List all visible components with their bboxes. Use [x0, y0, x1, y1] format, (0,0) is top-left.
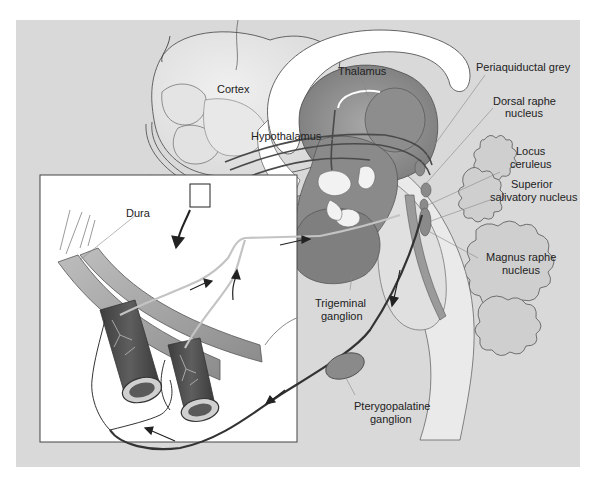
label-trigeminal-ganglion-line2: ganglion	[321, 310, 363, 322]
label-superior-salivatory-line2: salivatory nucleus	[490, 191, 577, 203]
label-magnus-raphe-line1: Magnus raphe	[486, 251, 556, 263]
label-periaqueductal-grey: Periaquiductal grey	[476, 61, 570, 73]
label-pterygopalatine-ganglion-line2: ganglion	[370, 413, 412, 425]
label-thalamus: Thalamus	[338, 65, 386, 77]
thalamus-nucleus	[365, 88, 425, 152]
label-locus-ceruleus-line1: Locus	[516, 145, 545, 157]
label-pterygopalatine-ganglion-line1: Pterygopalatine	[354, 400, 430, 412]
label-cortex: Cortex	[217, 83, 249, 95]
label-trigeminal-ganglion-line1: Trigeminal	[315, 297, 366, 309]
label-superior-salivatory-line1: Superior	[511, 178, 553, 190]
label-hypothalamus: Hypothalamus	[251, 130, 321, 142]
label-dorsal-raphe-line2: nucleus	[505, 107, 543, 119]
label-dura: Dura	[126, 207, 150, 219]
trigeminovascular-diagram: Cortex Thalamus Hypothalamus Periaquiduc…	[0, 0, 597, 479]
label-dorsal-raphe-line1: Dorsal raphe	[493, 95, 556, 107]
label-magnus-raphe-line2: nucleus	[502, 264, 540, 276]
label-locus-ceruleus-line2: ceruleus	[510, 158, 552, 170]
